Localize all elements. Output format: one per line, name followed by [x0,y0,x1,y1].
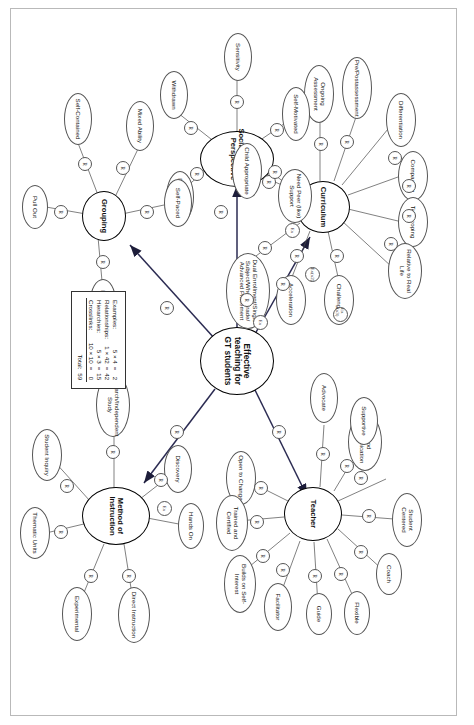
relationship-marker-icon: R [116,161,130,175]
leaf-node-self-contained: Self-Contained [64,93,92,145]
relationship-marker-icon: R [268,165,282,179]
leaf-node-telescoping: Telescoping [398,197,428,247]
leaf-label: Differentiation [398,101,405,139]
relationship-marker-icon: R [258,241,272,255]
relationship-marker-icon: R [330,249,344,263]
leaf-node-self-motivated: Self-Motivated [282,87,310,141]
leaf-label: Guide [316,606,323,623]
leaf-node-guide: Guide [306,593,332,635]
marker-label: R [244,298,250,302]
relationship-marker-icon: R [140,205,154,219]
leaf-label: Dual Enrollment/Single Subject/Whole Gra… [238,257,258,325]
relationship-marker-icon: R [314,137,328,151]
leaf-node-supportive: Supportive [350,397,378,445]
marker-label: R [258,486,264,490]
leaf-label: Ongoing Assessment [312,69,325,119]
legend-total-value: 59 [77,371,87,382]
legend-row: Examples: 5 × 4 = 2 [112,298,120,382]
marker-label: R [194,172,200,176]
leaf-label: Student Centered [400,497,413,543]
leaf-label: Coach [386,565,393,583]
leaf-node-pull-out: Pull Out [22,185,48,229]
leaf-node-direct-instruction: Direct Instruction [118,587,150,643]
leaf-label: Self-Contained [75,99,82,140]
legend-box: Examples: 5 × 4 = 2 Relationships: 1 × 4… [71,291,126,389]
relationship-marker-icon: R [230,95,244,109]
branch-label-curriculum: Curriculum [319,187,327,228]
marker-label: R [276,430,282,434]
marker-label: R [406,214,412,218]
marker-label: R [254,520,260,524]
leaf-node-thematic-units: Thematic Units [20,507,50,559]
branch-label-grouping: Grouping [100,199,108,233]
leaf-label: Advocate [321,385,328,411]
leaf-label: Thematic Units [32,512,39,553]
marker-label: R [280,282,286,286]
leaf-node-flexible-teacher: Flexible [344,591,370,635]
legend-row: Hierarchies: 5 × 3 = 15 [95,298,103,382]
leaf-label: Flexible [354,602,361,623]
leaf-node-hands-on: Hands On [178,503,204,549]
leaf-node-trained-and-certified: Trained and Certified [216,495,248,551]
marker-label: R [82,162,88,166]
marker-label: R [312,574,318,578]
leaf-node-sensitivity: Sensitivity [224,33,252,81]
center-node: Effective teaching for GT students [200,327,274,395]
relationship-marker-icon: R [340,459,354,473]
leaf-label: Need Peer (like) Support [288,173,301,219]
marker-label: R [110,450,116,454]
legend-label: Relationships: [104,298,112,341]
leaf-label: Builds on Self-Interest [233,559,246,609]
leaf-node-student-centered: Student Centered [392,493,422,547]
legend-total-label: Total: [77,298,87,371]
legend-table: Examples: 5 × 4 = 2 Relationships: 1 × 4… [77,298,120,382]
legend-total-row: Total: 59 [77,298,87,382]
relationship-marker-icon: R [60,479,74,493]
marker-label: R [174,430,180,434]
leaf-node-child-appropriate: Child Appropriate [232,143,262,199]
legend-expression: 5 × 4 [112,341,120,366]
leaf-node-student-inquiry: Student Inquiry [32,429,62,481]
relationship-marker-icon: R [254,481,268,495]
leaf-label: Withdrawn [171,80,178,109]
marker-label: R [280,568,286,572]
leaf-node-advocate: Advocate [310,373,338,423]
relationship-marker-icon: R [290,249,304,263]
marker-label: R [144,210,150,214]
example-marker-icon: Ex [285,223,300,238]
relationship-marker-icon: R [402,209,416,223]
marker-label: R [262,246,268,250]
relationship-marker-icon: R [170,425,184,439]
relationship-marker-icon: R [250,515,264,529]
marker-label: R [58,530,64,534]
leaf-label: Self-Paced [175,188,182,218]
leaf-label: Facilitator [275,594,282,621]
marker-label: R [358,550,364,554]
leaf-label: Pull Out [32,196,39,218]
relationship-marker-icon: R [84,569,98,583]
branch-label-method: Method of Instruction [108,491,124,541]
marker-label: R [320,452,326,456]
relationship-marker-icon: R [54,525,68,539]
relationship-marker-icon: R [340,135,354,149]
branch-node-grouping: Grouping [82,191,126,241]
legend-value: 42 [104,371,112,382]
leaf-label: Hands On [188,512,195,540]
example-marker-icon: Ex (x3) [333,307,348,322]
branch-label-teacher: Teacher [309,500,317,529]
leaf-node-builds-on-self-interest: Builds on Self-Interest [224,555,256,613]
marker-label: R [358,476,364,480]
center-node-label: Effective teaching for GT students [223,331,250,391]
marker-label: R [274,128,280,132]
diagram-page: Effective teaching for GT students Curri… [0,0,474,725]
marker-label: R [218,210,224,214]
marker-label: Ex (x3) [336,308,346,321]
marker-label: R [388,242,394,246]
relationship-marker-icon: R [276,563,290,577]
leaf-label: Relative to Real Life [398,247,411,295]
relationship-marker-icon: R [276,277,290,291]
marker-label: R [64,484,70,488]
marker-label: R [392,156,398,160]
marker-label: R [126,574,132,578]
relationship-marker-icon: R [270,123,284,137]
